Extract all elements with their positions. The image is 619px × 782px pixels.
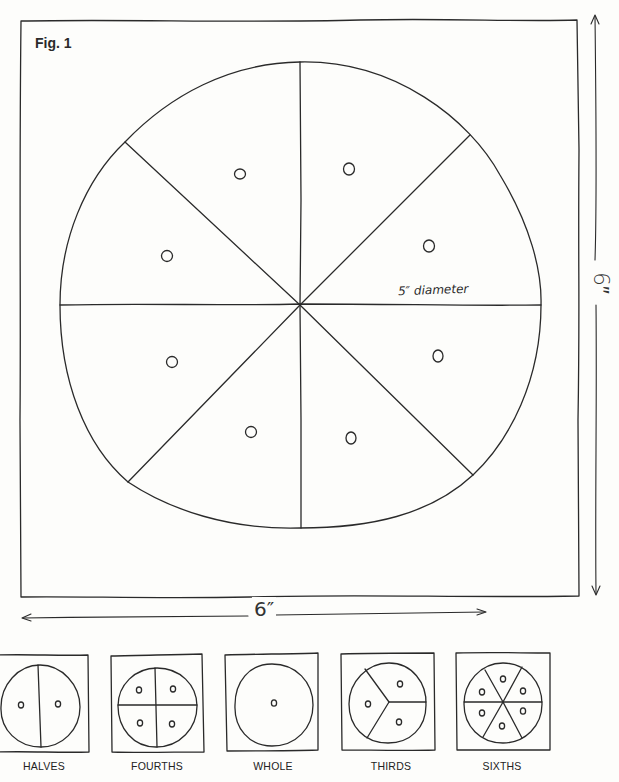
card-sixths [456,653,550,750]
card-thirds [341,653,435,750]
hole [162,251,173,262]
card-label-whole: WHOLE [223,760,323,772]
height-dimension-arrow [591,15,600,595]
main-circle-dividers [60,62,541,528]
card-fourths [111,654,204,752]
hole [235,169,246,179]
width-label: 6″ [252,597,276,621]
card-label-halves: HALVES [0,760,94,772]
hole [424,240,435,252]
height-label: 6″ [588,272,614,294]
card-label-sixths: SIXTHS [452,760,552,772]
hole [433,350,443,362]
diagram-canvas [0,0,619,782]
diameter-label: 5″ diameter [398,282,469,298]
card-whole [225,653,318,751]
figure-label: Fig. 1 [35,35,72,51]
card-label-fourths: FOURTHS [107,760,207,772]
hole [346,432,356,444]
hole [344,163,355,175]
hole [246,427,257,438]
hole [167,357,178,368]
card-halves [0,655,89,753]
card-label-thirds: THIRDS [341,760,441,772]
